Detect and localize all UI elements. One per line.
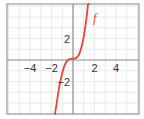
y-tick-label: −2: [57, 76, 70, 88]
x-tick-label: −2: [45, 62, 58, 74]
y-tick-label: 2: [64, 33, 70, 45]
curve-label-f: f: [93, 10, 99, 25]
function-plot: −4−224 2−2 f: [0, 0, 144, 119]
x-tick-labels: −4−224: [24, 62, 119, 74]
x-tick-label: 4: [113, 62, 119, 74]
x-tick-label: −4: [24, 62, 37, 74]
x-tick-label: 2: [91, 62, 97, 74]
